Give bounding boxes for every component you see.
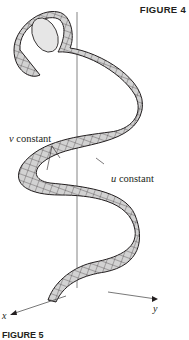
x-axis-label: x [2,310,6,321]
y-axis [108,292,156,299]
y-axis-label: y [153,303,157,314]
bottom-caption: FIGURE 5 [2,330,44,340]
u-constant-label: u constant [111,173,154,184]
v-constant-label: v constant [9,133,51,144]
x-axis [12,296,66,314]
